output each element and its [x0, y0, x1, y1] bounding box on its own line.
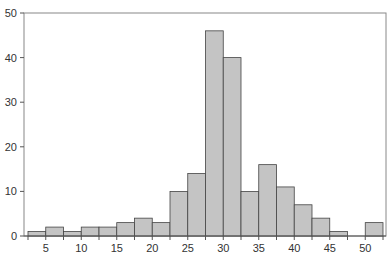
y-tick-label: 0	[11, 230, 17, 242]
histogram-bar	[206, 31, 224, 236]
x-tick-label: 40	[288, 242, 300, 254]
histogram-bar	[99, 227, 117, 236]
histogram-bar	[46, 227, 64, 236]
x-axis: 5101520253035404550	[24, 236, 386, 254]
y-tick-label: 50	[5, 7, 17, 19]
histogram-bar	[312, 218, 330, 236]
histogram-bar	[241, 191, 259, 236]
x-tick-label: 25	[182, 242, 194, 254]
x-tick-label: 20	[146, 242, 158, 254]
x-tick-label: 15	[111, 242, 123, 254]
y-tick-label: 30	[5, 96, 17, 108]
y-axis: 01020304050	[5, 7, 24, 242]
histogram-bar	[365, 223, 383, 236]
histogram-bar	[223, 58, 241, 236]
x-tick-label: 45	[324, 242, 336, 254]
y-tick-label: 20	[5, 141, 17, 153]
histogram-bar	[28, 232, 46, 236]
histogram-bar	[294, 205, 312, 236]
x-tick-label: 35	[253, 242, 265, 254]
histogram-bar	[277, 187, 295, 236]
histogram-bars	[28, 31, 383, 236]
x-tick-label: 5	[43, 242, 49, 254]
histogram-bar	[135, 218, 153, 236]
histogram-bar	[188, 174, 206, 236]
x-tick-label: 50	[359, 242, 371, 254]
x-tick-label: 30	[217, 242, 229, 254]
histogram-bar	[64, 232, 82, 236]
y-tick-label: 10	[5, 185, 17, 197]
histogram-bar	[259, 165, 277, 236]
histogram-chart: 01020304050 5101520253035404550	[0, 0, 392, 265]
histogram-bar	[152, 223, 170, 236]
histogram-bar	[170, 191, 188, 236]
x-tick-label: 10	[75, 242, 87, 254]
histogram-bar	[330, 232, 348, 236]
histogram-bar	[81, 227, 99, 236]
histogram-bar	[117, 223, 135, 236]
y-tick-label: 40	[5, 52, 17, 64]
